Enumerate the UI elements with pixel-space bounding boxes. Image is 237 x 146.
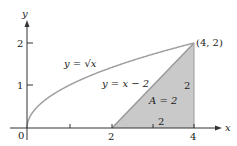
y-axis-arrow-icon <box>25 20 30 27</box>
x-axis-label: x <box>225 122 231 133</box>
x-tick-2: 2 <box>108 131 114 142</box>
point-label: (4, 2) <box>196 37 223 48</box>
base-label: 2 <box>158 116 164 127</box>
line-curve-label: y = x − 2 <box>101 78 149 89</box>
y-tick-2: 2 <box>17 38 23 49</box>
x-axis-arrow-icon <box>215 126 222 131</box>
origin-label: 0 <box>18 130 24 141</box>
sqrt-curve-label: y = √x <box>63 58 97 69</box>
y-tick-1: 1 <box>17 80 23 91</box>
area-label: A = 2 <box>148 95 177 106</box>
x-tick-4: 4 <box>190 131 196 142</box>
height-label: 2 <box>184 80 190 91</box>
y-axis-label: y <box>21 8 28 19</box>
area-diagram: y x 0 2 4 1 2 y = √x y = x − 2 (4, 2) A … <box>0 0 237 146</box>
